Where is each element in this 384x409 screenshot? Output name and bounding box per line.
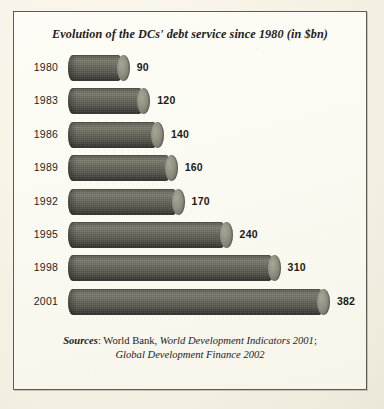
bar-value-label: 240: [240, 228, 258, 240]
bar-row: 1998310: [14, 255, 367, 281]
bar-category-label: 1998: [14, 261, 58, 273]
bar-cylinder: [68, 88, 150, 114]
bar-cylinder-body: [68, 122, 158, 148]
bar-cylinder: [68, 155, 178, 181]
sources-org: World Bank,: [103, 335, 160, 346]
paper-background: Evolution of the DCs' debt service since…: [0, 0, 384, 409]
bar-cylinder: [68, 189, 185, 215]
sources-lead: Sources: [63, 335, 98, 346]
bar-value-label: 90: [137, 61, 149, 73]
bar-category-label: 1983: [14, 94, 58, 106]
bar-category-label: 1995: [14, 228, 58, 240]
bar-cylinder-cap: [220, 222, 233, 248]
bar-value-label: 160: [185, 161, 203, 173]
bar-row: 2001382: [14, 289, 367, 315]
bar-cylinder: [68, 222, 233, 248]
sources-semicolon: ;: [314, 335, 317, 346]
bar-cylinder: [68, 289, 330, 315]
bar-cylinder-cap: [317, 289, 330, 315]
bar-cylinder-body: [68, 88, 144, 114]
bar-cylinder-cap: [172, 189, 185, 215]
bar-cylinder-body: [68, 222, 226, 248]
bar-value-label: 310: [288, 261, 306, 273]
bar-cylinder: [68, 122, 164, 148]
bar-category-label: 1986: [14, 128, 58, 140]
bar-value-label: 382: [337, 295, 355, 307]
sources-note: Sources: World Bank, World Development I…: [14, 334, 366, 362]
bar-cylinder-body: [68, 189, 178, 215]
chart-frame: Evolution of the DCs' debt service since…: [13, 11, 367, 390]
sources-publication-1: World Development Indicators 2001: [160, 335, 314, 346]
bar-value-label: 120: [157, 94, 175, 106]
sources-publication-2: Global Development Finance 2002: [115, 349, 264, 360]
sources-line-2: Global Development Finance 2002: [14, 348, 366, 362]
bar-cylinder-body: [68, 155, 171, 181]
bar-cylinder-cap: [268, 255, 281, 281]
bar-cylinder-cap: [137, 88, 150, 114]
bar-row: 1989160: [14, 155, 367, 181]
bar-cylinder-cap: [165, 155, 178, 181]
bar-category-label: 2001: [14, 295, 58, 307]
bar-cylinder-cap: [117, 55, 130, 81]
bar-category-label: 1989: [14, 161, 58, 173]
bar-cylinder: [68, 55, 130, 81]
bar-cylinder-body: [68, 255, 274, 281]
bar-cylinder-body: [68, 289, 324, 315]
chart-title: Evolution of the DCs' debt service since…: [14, 27, 366, 42]
bar-row: 1992170: [14, 189, 367, 215]
bar-row: 198090: [14, 55, 367, 81]
bar-value-label: 140: [171, 128, 189, 140]
bar-row: 1983120: [14, 88, 367, 114]
bar-value-label: 170: [192, 195, 210, 207]
bar-category-label: 1992: [14, 195, 58, 207]
bar-row: 1986140: [14, 122, 367, 148]
sources-line-1: Sources: World Bank, World Development I…: [14, 334, 366, 348]
bar-cylinder-cap: [151, 122, 164, 148]
bar-category-label: 1980: [14, 61, 58, 73]
bar-cylinder: [68, 255, 281, 281]
bar-row: 1995240: [14, 222, 367, 248]
chart-plot-area: 1980901983120198614019891601992170199524…: [14, 55, 367, 323]
bar-cylinder-body: [68, 55, 123, 81]
